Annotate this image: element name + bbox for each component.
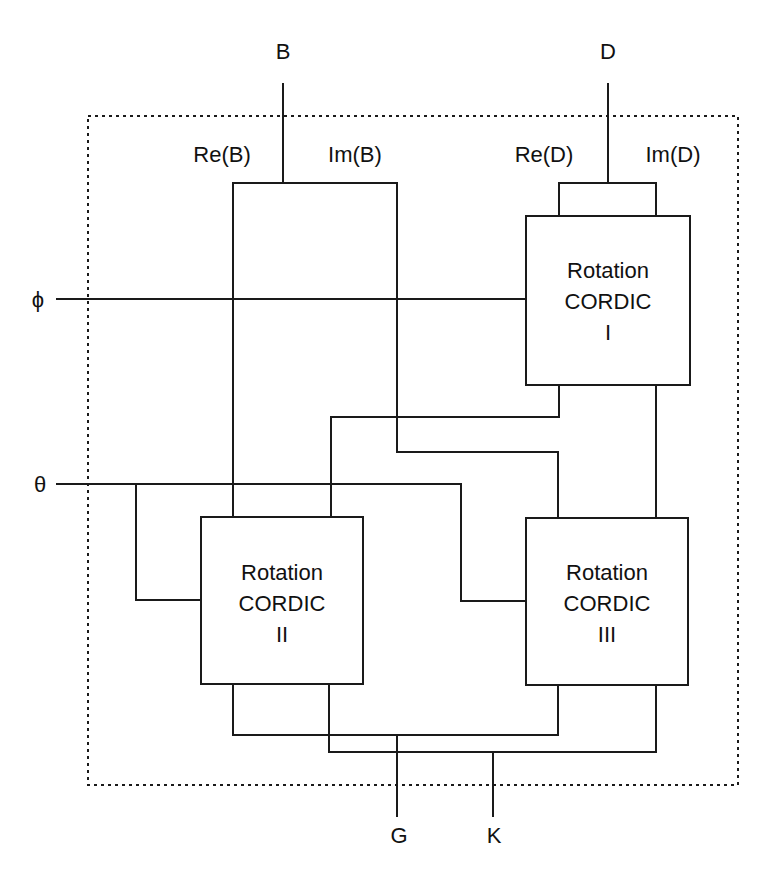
port-im-b-label: Im(B) bbox=[328, 142, 382, 167]
block-i-line2: CORDIC bbox=[565, 289, 652, 314]
input-d-label: D bbox=[600, 39, 616, 64]
input-theta-label: θ bbox=[34, 472, 46, 497]
cordic-block-iii: Rotation CORDIC III bbox=[526, 518, 688, 685]
bus-k bbox=[329, 684, 656, 752]
block-iii-line2: CORDIC bbox=[564, 591, 651, 616]
output-k-label: K bbox=[487, 823, 502, 848]
wire-b-split bbox=[233, 183, 558, 518]
bus-g bbox=[233, 684, 558, 735]
output-g-label: G bbox=[390, 823, 407, 848]
block-ii-line3: II bbox=[276, 622, 288, 647]
wire-d-split bbox=[559, 183, 656, 216]
port-im-d-label: Im(D) bbox=[646, 142, 701, 167]
input-b-label: B bbox=[276, 39, 291, 64]
block-ii-line2: CORDIC bbox=[239, 591, 326, 616]
cordic-block-ii: Rotation CORDIC II bbox=[201, 517, 363, 684]
block-i-line1: Rotation bbox=[567, 258, 649, 283]
cordic-block-i: Rotation CORDIC I bbox=[526, 216, 690, 385]
block-iii-line3: III bbox=[598, 622, 616, 647]
block-i-line3: I bbox=[605, 320, 611, 345]
cordic-diagram: B Re(B) Im(B) D Re(D) Im(D) ϕ θ G K Rota… bbox=[0, 0, 770, 877]
wire-theta-to-ii bbox=[136, 484, 201, 600]
input-phi-label: ϕ bbox=[32, 287, 44, 312]
block-ii-line1: Rotation bbox=[241, 560, 323, 585]
block-iii-line1: Rotation bbox=[566, 560, 648, 585]
port-re-b-label: Re(B) bbox=[193, 142, 250, 167]
port-re-d-label: Re(D) bbox=[515, 142, 574, 167]
